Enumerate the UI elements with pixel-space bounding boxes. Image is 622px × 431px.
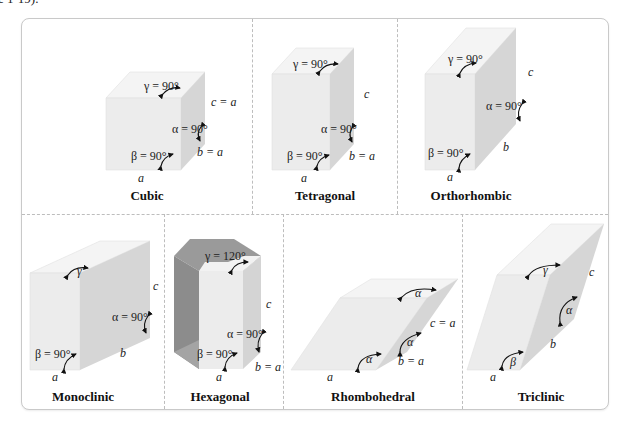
- hexagonal-a-label: a: [216, 370, 222, 384]
- tetragonal-c-label: c: [364, 87, 370, 101]
- orthorhombic-gamma-label: γ = 90°: [447, 52, 483, 66]
- monoclinic-a-label: a: [52, 370, 58, 384]
- tetragonal-alpha-label: α = 90°: [321, 122, 357, 136]
- cubic-alpha-label: α = 90°: [172, 122, 208, 136]
- rhombohedral-b-label: b = a: [398, 354, 424, 368]
- monoclinic-b-label: b: [120, 346, 126, 360]
- monoclinic-c-label: c: [153, 279, 159, 293]
- tetragonal-a-label: a: [301, 171, 307, 185]
- triclinic-c-label: c: [589, 265, 595, 279]
- triclinic-b-label: b: [550, 337, 556, 351]
- rhombohedral-a-label: a: [327, 370, 333, 384]
- cubic-beta-label: β = 90°: [131, 149, 167, 163]
- triclinic-beta-label: β: [509, 355, 516, 369]
- triclinic-a-label: a: [490, 370, 496, 384]
- monoclinic-alpha-label: α = 90°: [112, 310, 148, 324]
- tetragonal-b-label: b = a: [349, 149, 375, 163]
- tetragonal-beta-label: β = 90°: [287, 149, 323, 163]
- monoclinic-beta-label: β = 90°: [35, 347, 71, 361]
- triclinic-gamma-label: γ: [543, 263, 548, 277]
- triclinic-title: Triclinic: [518, 389, 565, 404]
- hexagonal-title: Hexagonal: [190, 389, 250, 404]
- rhombohedral-alpha-top-label: α: [415, 286, 422, 300]
- orthorhombic-a-label: a: [447, 170, 453, 184]
- triclinic-cell: [467, 224, 604, 370]
- hexagonal-gamma-label: γ = 120°: [204, 249, 246, 263]
- rhombohedral-c-label: c = a: [430, 316, 455, 330]
- monoclinic-gamma-label: γ: [77, 264, 82, 278]
- orthorhombic-alpha-label: α = 90°: [486, 99, 522, 113]
- rhombohedral-alpha-side-label: α: [407, 335, 414, 349]
- rhombohedral-alpha-front-label: α: [366, 352, 373, 366]
- triclinic-alpha-label: α: [566, 303, 573, 317]
- hexagonal-alpha-label: α = 90°: [227, 327, 263, 341]
- cubic-gamma-label: γ = 90°: [143, 79, 179, 93]
- tetragonal-title: Tetragonal: [295, 188, 356, 203]
- orthorhombic-b-label: b: [503, 140, 509, 154]
- cubic-title: Cubic: [130, 188, 163, 203]
- orthorhombic-beta-label: β = 90°: [428, 146, 464, 160]
- cubic-b-label: b = a: [197, 145, 223, 159]
- monoclinic-title-text: Monoclinic: [52, 389, 114, 404]
- cubic-a-label: a: [138, 171, 144, 185]
- hexagonal-beta-label: β = 90°: [197, 347, 233, 361]
- hexagonal-b-label: b = a: [255, 360, 281, 374]
- hexagonal-c-label: c: [266, 297, 272, 311]
- orthorhombic-c-label: c: [528, 65, 534, 79]
- tetragonal-gamma-label: γ = 90°: [292, 57, 328, 71]
- rhombohedral-title: Rhombohedral: [331, 389, 415, 404]
- orthorhombic-title: Orthorhombic: [431, 188, 512, 203]
- crystal-figures: γ = 90° α = 90° β = 90° c = a b = a a Cu…: [0, 0, 622, 431]
- cubic-c-label: c = a: [211, 95, 236, 109]
